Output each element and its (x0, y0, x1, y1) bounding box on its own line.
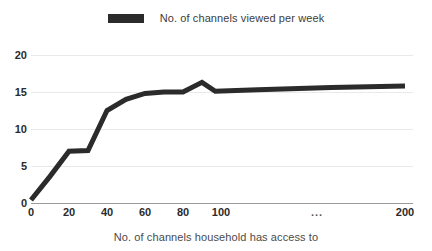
x-tick-20: 20 (63, 207, 75, 218)
chart-container: No. of channels viewed per week 20 15 10… (0, 0, 432, 251)
y-tick-5: 5 (3, 161, 27, 172)
y-tick-10: 10 (3, 124, 27, 135)
x-axis-title: No. of channels household has access to (0, 231, 432, 243)
plot-area (31, 55, 413, 203)
chart-legend: No. of channels viewed per week (0, 12, 432, 24)
legend-label: No. of channels viewed per week (160, 12, 325, 24)
legend-swatch-icon (108, 14, 144, 23)
x-tick-100: 100 (212, 207, 230, 218)
x-tick-0: 0 (28, 207, 34, 218)
series-path-channels-viewed (31, 82, 405, 200)
x-tick-200: 200 (396, 207, 414, 218)
x-tick-ellipsis: ... (311, 207, 323, 218)
x-tick-60: 60 (139, 207, 151, 218)
x-axis-ticks: 0 20 40 60 80 100 ... 200 (0, 207, 432, 223)
y-axis-ticks: 20 15 10 5 0 (0, 55, 27, 203)
y-tick-20: 20 (3, 50, 27, 61)
axis-baseline (31, 203, 413, 204)
x-tick-80: 80 (177, 207, 189, 218)
series-line-chart (31, 55, 413, 203)
y-tick-15: 15 (3, 87, 27, 98)
x-tick-40: 40 (101, 207, 113, 218)
